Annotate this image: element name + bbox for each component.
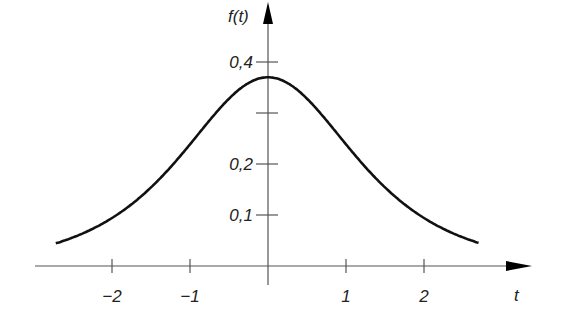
y-tick-label: 0,1 — [229, 206, 253, 225]
x-tick-label: −1 — [180, 287, 199, 306]
x-axis-arrow-icon — [506, 261, 532, 271]
x-axis-label: t — [514, 286, 520, 305]
y-axis-arrow-icon — [263, 2, 273, 24]
curve — [56, 77, 479, 243]
plot-area: −2−1120,10,20,4tf(t) — [0, 0, 569, 328]
x-tick-label: 2 — [418, 287, 429, 306]
chart: −2−1120,10,20,4tf(t) — [0, 0, 569, 328]
y-axis-label: f(t) — [228, 7, 249, 26]
x-tick-label: −2 — [102, 287, 122, 306]
x-tick-label: 1 — [341, 287, 350, 306]
y-tick-label: 0,4 — [229, 53, 253, 72]
y-tick-label: 0,2 — [229, 155, 253, 174]
